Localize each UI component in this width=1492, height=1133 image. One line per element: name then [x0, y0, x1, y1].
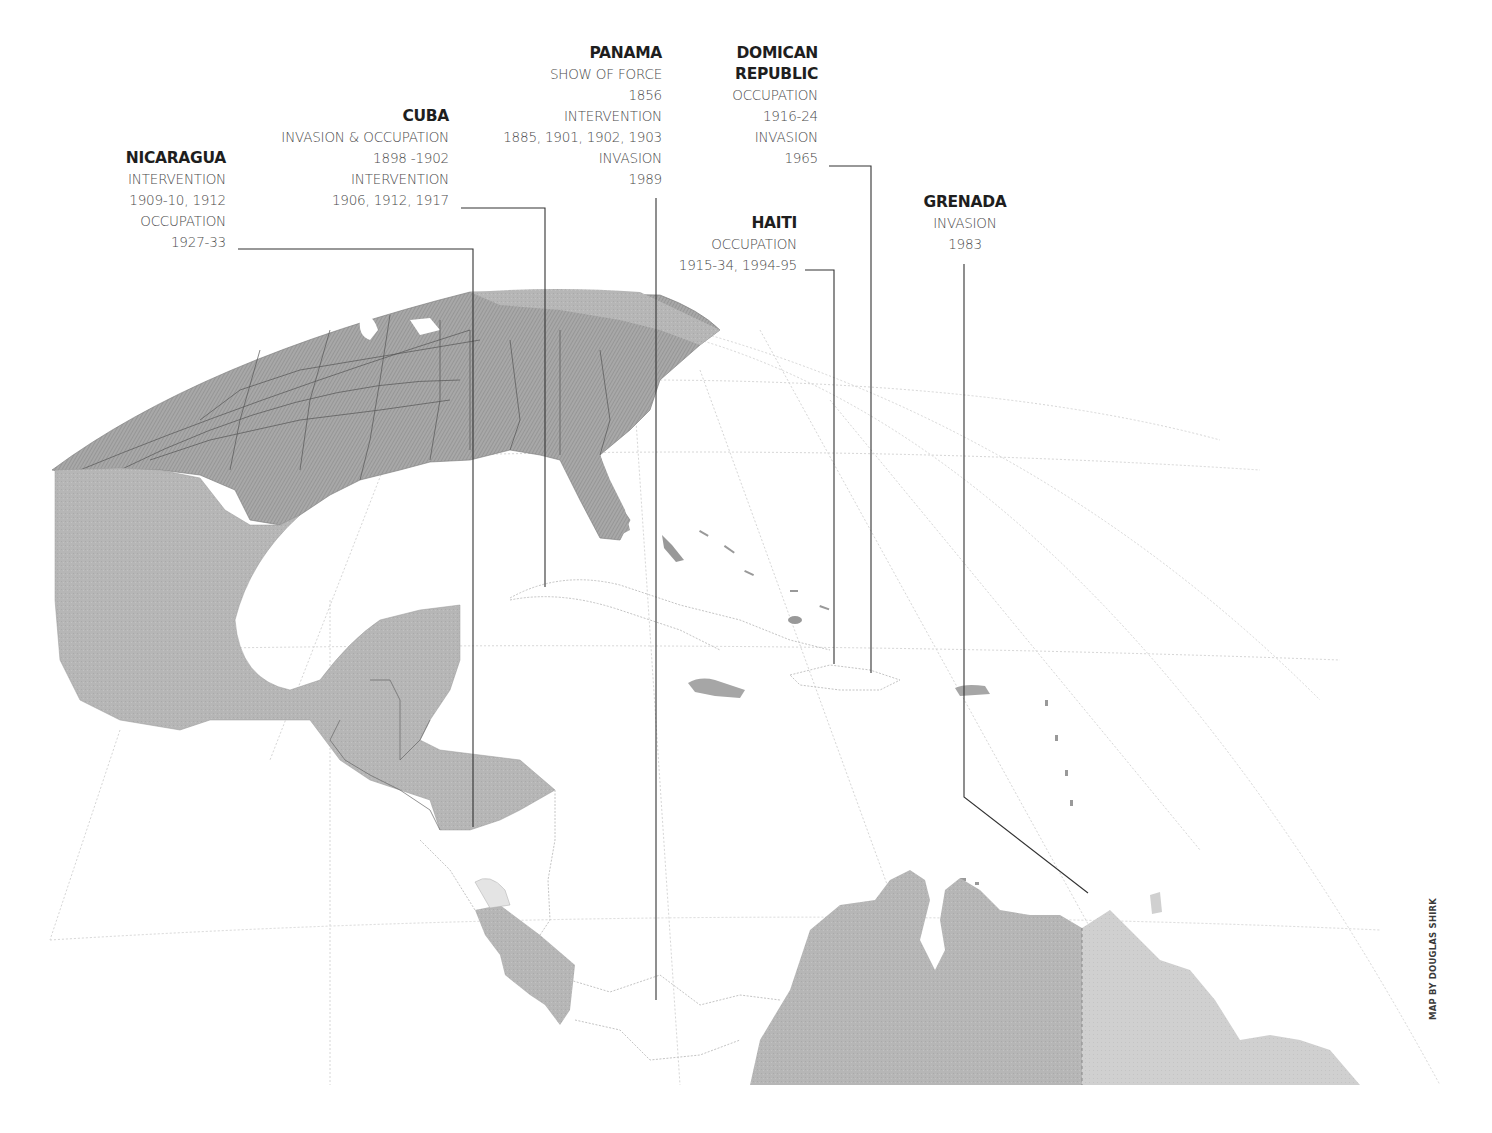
event-years: 1983	[915, 234, 1015, 255]
label-nicaragua: NICARAGUA INTERVENTION 1909-10, 1912 OCC…	[126, 148, 226, 253]
label-dominican-republic: DOMICAN REPUBLIC OCCUPATION 1916-24 INVA…	[732, 43, 818, 169]
event-type: OCCUPATION	[126, 211, 226, 232]
event-years: 1916-24	[732, 106, 818, 127]
leader-haiti	[805, 270, 834, 664]
event-years: 1885, 1901, 1902, 1903	[503, 127, 662, 148]
map-credit: MAP BY DOUGLAS SHIRK	[1428, 898, 1438, 1020]
lake-nicaragua	[475, 878, 510, 908]
mexico-central-america-landmass	[55, 468, 555, 830]
event-type: INTERVENTION	[126, 169, 226, 190]
south-america-landmass-west	[750, 870, 1082, 1085]
country-name-panama: PANAMA	[503, 43, 662, 64]
trinidad	[1150, 892, 1162, 914]
event-type: INVASION	[732, 127, 818, 148]
caribbean-islands	[662, 530, 1073, 885]
event-type: SHOW OF FORCE	[503, 64, 662, 85]
country-name-nicaragua: NICARAGUA	[126, 148, 226, 169]
event-years: 1856	[503, 85, 662, 106]
label-panama: PANAMA SHOW OF FORCE 1856 INTERVENTION 1…	[503, 43, 662, 190]
event-years: 1906, 1912, 1917	[281, 190, 449, 211]
south-america-landmass-east	[1082, 910, 1360, 1085]
costa-rica-landmass	[475, 905, 575, 1025]
country-name-grenada: GRENADA	[915, 192, 1015, 213]
event-type: INVASION	[915, 213, 1015, 234]
label-grenada: GRENADA INVASION 1983	[915, 192, 1015, 255]
leader-lines	[238, 166, 1088, 1000]
event-years: 1965	[732, 148, 818, 169]
country-name-dominican-republic-line2: REPUBLIC	[732, 64, 818, 85]
event-type: INTERVENTION	[281, 169, 449, 190]
event-years: 1989	[503, 169, 662, 190]
country-name-dominican-republic-line1: DOMICAN	[732, 43, 818, 64]
leader-grenada	[964, 264, 1088, 893]
country-name-cuba: CUBA	[281, 106, 449, 127]
event-type: INVASION & OCCUPATION	[281, 127, 449, 148]
event-type: OCCUPATION	[732, 85, 818, 106]
label-haiti: HAITI OCCUPATION 1915-34, 1994-95	[679, 213, 797, 276]
event-type: INVASION	[503, 148, 662, 169]
event-years: 1927-33	[126, 232, 226, 253]
leader-dominican-republic	[829, 166, 871, 673]
event-years: 1898 -1902	[281, 148, 449, 169]
event-years: 1909-10, 1912	[126, 190, 226, 211]
event-years: 1915-34, 1994-95	[679, 255, 797, 276]
event-type: INTERVENTION	[503, 106, 662, 127]
country-name-haiti: HAITI	[679, 213, 797, 234]
label-cuba: CUBA INVASION & OCCUPATION 1898 -1902 IN…	[281, 106, 449, 211]
event-type: OCCUPATION	[679, 234, 797, 255]
